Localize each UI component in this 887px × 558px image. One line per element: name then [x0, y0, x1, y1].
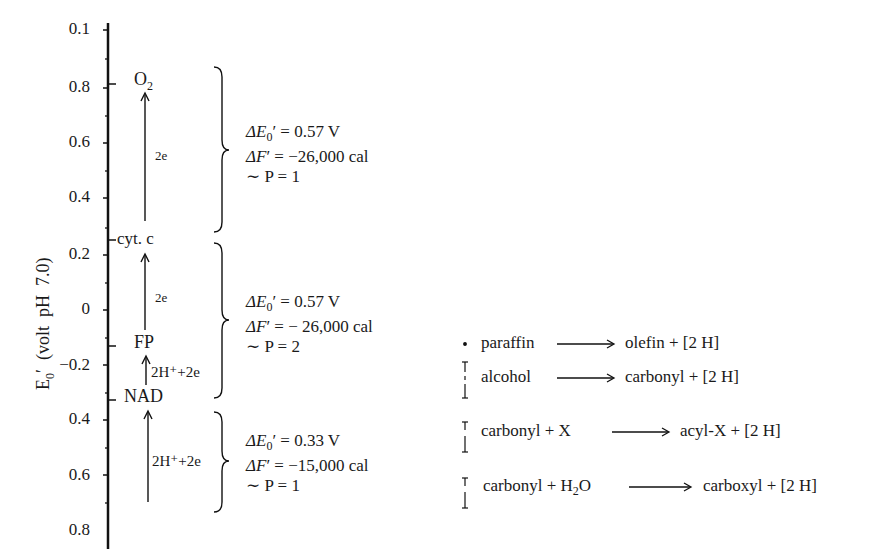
segment-stats-1: ΔE0′ = 0.57 V ΔF′ = −26,000 cal ∼ P = 1	[246, 122, 369, 187]
node-o2: O2	[134, 69, 153, 94]
reaction-3-right: acyl-X + [2 H]	[680, 421, 781, 441]
tick-label: 0.6	[40, 465, 90, 485]
reaction-4-right: carboxyl + [2 H]	[703, 476, 817, 496]
arrow-label: 2e	[155, 290, 167, 306]
node-nad: NAD	[124, 386, 163, 407]
node-fp: FP	[134, 332, 154, 353]
tick-label: 0.4	[40, 409, 90, 429]
reaction-2-right: carbonyl + [2 H]	[625, 367, 739, 387]
reaction-1-left: paraffin	[481, 333, 535, 353]
segment-stats-2: ΔE0′ = 0.57 V ΔF′ = − 26,000 cal ∼ P = 2	[246, 292, 373, 357]
braces	[214, 67, 229, 512]
y-axis-label: E0′ (volt pH 7.0)	[33, 258, 58, 390]
tick-label: 0.8	[40, 77, 90, 97]
arrow-label: 2H⁺+2e	[152, 452, 201, 470]
reaction-arrows	[557, 340, 691, 491]
reaction-2-left: alcohol	[481, 367, 531, 387]
segment-stats-3: ΔE0′ = 0.33 V ΔF′ = −15,000 cal ∼ P = 1	[246, 431, 369, 496]
reaction-markers	[462, 343, 468, 508]
tick-label: 0.8	[40, 520, 90, 540]
tick-label: 0.1	[40, 19, 90, 39]
transfer-arrows	[141, 93, 152, 502]
tick-label: 0.6	[40, 132, 90, 152]
arrow-label: 2H⁺+2e	[151, 363, 200, 381]
reaction-3-left: carbonyl + X	[481, 421, 571, 441]
reaction-1-right: olefin + [2 H]	[625, 333, 719, 353]
reaction-4-left: carbonyl + H2O	[483, 476, 591, 499]
arrow-label: 2e	[155, 148, 167, 164]
node-cyt-c: cyt. c	[117, 229, 154, 249]
tick-label: 0.4	[40, 187, 90, 207]
